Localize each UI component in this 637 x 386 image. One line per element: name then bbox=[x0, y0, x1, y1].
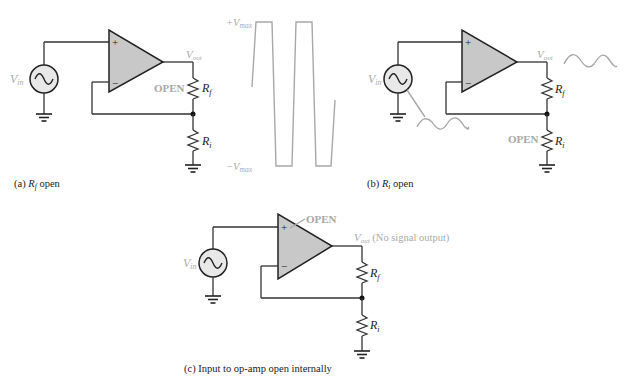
svg-text:+: + bbox=[465, 36, 471, 48]
ground-icon bbox=[539, 165, 555, 172]
panel-b-ri-open: Vin + − Vout Rf OPEN Ri (b) Ri open bbox=[367, 30, 617, 191]
svg-text:OPEN: OPEN bbox=[154, 82, 185, 94]
ground-icon bbox=[354, 351, 370, 358]
resistor-ri bbox=[188, 130, 198, 151]
input-sine-waveform bbox=[417, 118, 469, 129]
resistor-rf bbox=[188, 78, 198, 99]
ac-source: Vin bbox=[183, 227, 227, 303]
svg-text:−Vmax: −Vmax bbox=[226, 161, 253, 174]
svg-text:+: + bbox=[281, 221, 287, 233]
panel-c-input-open-internally: Vin + − OPEN Vout (No signal output) Rf … bbox=[183, 213, 450, 375]
resistor-ri bbox=[542, 130, 552, 151]
svg-text:Ri: Ri bbox=[554, 134, 565, 150]
svg-text:Vin: Vin bbox=[368, 72, 382, 87]
svg-text:(c) Input to op-amp open inter: (c) Input to op-amp open internally bbox=[184, 363, 333, 375]
svg-text:−: − bbox=[112, 77, 118, 89]
resistor-ri bbox=[357, 315, 367, 336]
ground-icon bbox=[185, 165, 201, 172]
svg-text:Ri: Ri bbox=[369, 318, 380, 334]
resistor-rf bbox=[357, 262, 367, 283]
svg-text:Rf: Rf bbox=[201, 81, 213, 97]
svg-text:OPEN: OPEN bbox=[306, 213, 337, 225]
ac-source: Vin bbox=[368, 42, 412, 121]
svg-text:Rf: Rf bbox=[369, 266, 381, 282]
panel-a-rf-open: Vin + − Vout OPEN Rf Ri (a) Rf open bbox=[10, 30, 213, 191]
svg-text:Vout (No signal output): Vout (No signal output) bbox=[354, 231, 450, 245]
svg-text:+Vmax: +Vmax bbox=[226, 17, 253, 30]
ground-icon bbox=[36, 114, 52, 121]
svg-text:+: + bbox=[112, 36, 118, 48]
svg-text:−: − bbox=[281, 260, 287, 272]
svg-text:Vout: Vout bbox=[537, 48, 554, 62]
resistor-rf bbox=[542, 78, 552, 99]
svg-text:Vout: Vout bbox=[186, 48, 203, 62]
ground-icon bbox=[205, 296, 221, 303]
output-sine-waveform bbox=[564, 55, 617, 67]
svg-text:Vin: Vin bbox=[10, 72, 24, 87]
svg-text:−: − bbox=[465, 77, 471, 89]
svg-text:(b) Ri open: (b) Ri open bbox=[367, 178, 414, 191]
svg-text:Ri: Ri bbox=[201, 134, 212, 150]
svg-text:Vin: Vin bbox=[183, 256, 197, 271]
svg-text:OPEN: OPEN bbox=[508, 133, 539, 145]
ground-icon bbox=[390, 114, 406, 121]
svg-text:Rf: Rf bbox=[554, 82, 566, 98]
op-amp-fault-diagram: Vin + − Vout OPEN Rf Ri (a) Rf open +Vma… bbox=[0, 0, 637, 386]
svg-text:(a) Rf open: (a) Rf open bbox=[14, 178, 61, 191]
ac-source: Vin bbox=[10, 42, 58, 121]
saturated-output-waveform: +Vmax −Vmax bbox=[226, 17, 335, 174]
